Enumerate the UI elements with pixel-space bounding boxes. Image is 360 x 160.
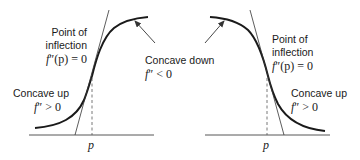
concave-down-formula: f″ < 0 <box>145 67 172 81</box>
concave-down-label: Concave down <box>145 54 215 66</box>
concave-down-arrow <box>135 21 155 43</box>
concave-up-label: Concave up <box>13 87 69 99</box>
panel-increasing: p Point of inflection f″(p) = 0 Concave … <box>13 10 155 152</box>
concave-up-label: Concave up <box>291 87 347 99</box>
inflection-label-line1: Point of <box>51 26 87 38</box>
p-tick-label: p <box>87 138 94 152</box>
inflection-label-line2: inflection <box>46 39 88 51</box>
panel-decreasing: p Point of inflection f″(p) = 0 Concave … <box>205 10 347 152</box>
concave-up-formula: f″ > 0 <box>291 100 318 114</box>
inflection-label-line1: Point of <box>272 33 308 45</box>
inflection-formula: f″(p) = 0 <box>272 59 313 73</box>
inflection-formula: f″(p) = 0 <box>46 52 87 66</box>
concave-up-formula: f″ > 0 <box>34 100 61 114</box>
p-tick-label: p <box>262 138 269 152</box>
concave-down-arrow <box>205 21 224 43</box>
inflection-label-line2: inflection <box>272 46 314 58</box>
inflection-diagram: p Point of inflection f″(p) = 0 Concave … <box>0 0 360 160</box>
